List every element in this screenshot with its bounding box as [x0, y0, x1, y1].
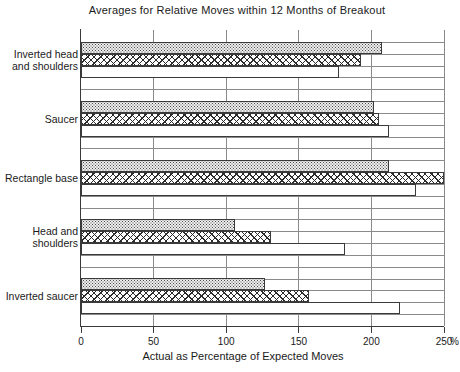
- bar-4-plain: [81, 302, 400, 314]
- x-tick-250: [444, 327, 445, 333]
- chart-title: Averages for Relative Moves within 12 Mo…: [0, 4, 460, 16]
- category-label-4: Inverted saucer: [6, 290, 78, 302]
- category-label-line: Rectangle base: [5, 172, 78, 184]
- x-axis-label-text: Actual as Percentage of Expected Moves: [116, 350, 343, 362]
- row-separator: [81, 314, 444, 315]
- row-separator: [81, 255, 444, 256]
- x-axis-line: [81, 326, 444, 327]
- category-label-line: and shoulders: [12, 60, 78, 72]
- bar-0-crosshatch: [81, 54, 361, 66]
- percent-sign: %: [450, 336, 459, 347]
- x-tick-label-100: 100: [206, 336, 246, 347]
- x-tick-200: [371, 327, 372, 333]
- x-tick-0: [81, 327, 82, 333]
- bar-0-dotted: [81, 42, 382, 54]
- category-label-line: Head and: [32, 225, 78, 237]
- row-separator: [81, 208, 444, 209]
- bar-1-plain: [81, 125, 389, 137]
- category-label-line: Saucer: [45, 113, 78, 125]
- x-tick-150: [298, 327, 299, 333]
- category-label-2: Rectangle base: [5, 172, 78, 184]
- bar-4-crosshatch: [81, 290, 309, 302]
- bar-3-plain: [81, 243, 345, 255]
- x-tick-100: [226, 327, 227, 333]
- row-separator: [81, 196, 444, 197]
- bar-0-plain: [81, 66, 339, 78]
- row-separator: [81, 137, 444, 138]
- row-separator: [81, 267, 444, 268]
- category-label-0: Inverted headand shoulders: [12, 48, 78, 72]
- bar-2-crosshatch: [81, 172, 444, 184]
- category-label-line: Inverted saucer: [6, 290, 78, 302]
- category-label-3: Head andshoulders: [32, 225, 78, 249]
- row-separator: [81, 89, 444, 90]
- x-tick-50: [153, 327, 154, 333]
- bar-3-dotted: [81, 219, 235, 231]
- chart-title-text: Averages for Relative Moves within 12 Mo…: [75, 4, 386, 16]
- x-tick-label-50: 50: [134, 336, 174, 347]
- bar-4-dotted: [81, 278, 265, 290]
- category-label-1: Saucer: [45, 113, 78, 125]
- bar-chart: Averages for Relative Moves within 12 Mo…: [0, 0, 460, 372]
- x-tick-label-0: 0: [61, 336, 101, 347]
- bar-3-crosshatch: [81, 231, 271, 243]
- x-axis-label: Actual as Percentage of Expected Moves: [0, 350, 460, 362]
- bar-2-dotted: [81, 160, 389, 172]
- x-tick-label-200: 200: [351, 336, 391, 347]
- bar-1-crosshatch: [81, 113, 379, 125]
- category-label-line: shoulders: [32, 237, 78, 249]
- category-label-line: Inverted head: [12, 48, 78, 60]
- bar-2-plain: [81, 184, 416, 196]
- x-tick-label-150: 150: [279, 336, 319, 347]
- row-separator: [81, 148, 444, 149]
- bar-1-dotted: [81, 101, 374, 113]
